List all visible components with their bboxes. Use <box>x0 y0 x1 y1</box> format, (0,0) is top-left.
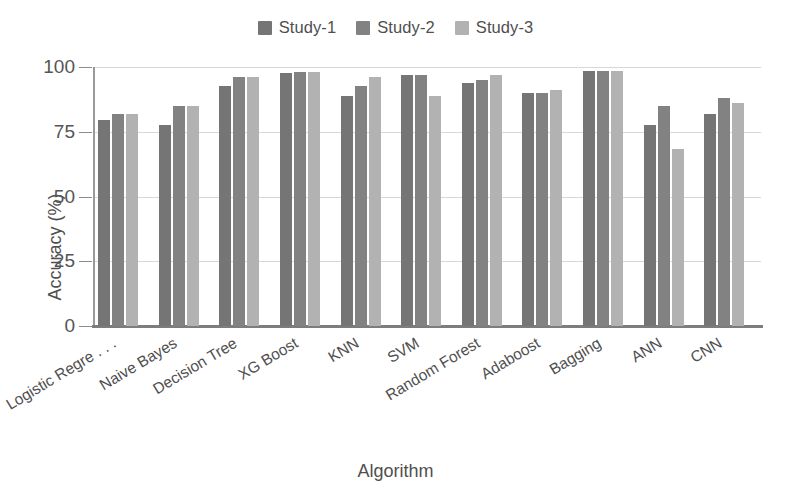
legend-swatch-icon-study-3 <box>455 21 469 35</box>
bar[interactable] <box>126 114 138 326</box>
legend-item-study-3: Study-3 <box>455 18 534 37</box>
y-tick-mark <box>79 326 92 327</box>
bar-group <box>640 67 701 326</box>
legend-item-study-2: Study-2 <box>356 18 435 37</box>
bar[interactable] <box>247 77 259 326</box>
bar-group <box>458 67 519 326</box>
legend-swatch-icon-study-1 <box>258 21 272 35</box>
bar-group <box>276 67 337 326</box>
x-tick-slot: Bagging <box>579 330 640 440</box>
legend-label-study-3: Study-3 <box>476 18 534 37</box>
bar[interactable] <box>233 77 245 326</box>
bar-group <box>518 67 579 326</box>
x-tick-slot: Decision Tree <box>215 330 276 440</box>
bar-group <box>700 67 761 326</box>
legend-swatch-icon-study-2 <box>356 21 370 35</box>
bar[interactable] <box>173 106 185 326</box>
bar-group <box>215 67 276 326</box>
bar[interactable] <box>159 125 171 326</box>
bar[interactable] <box>98 120 110 326</box>
x-tick-slot: CNN <box>700 330 761 440</box>
bar[interactable] <box>536 93 548 326</box>
bar[interactable] <box>280 73 292 326</box>
y-tick-mark <box>79 132 92 133</box>
bar-group <box>579 67 640 326</box>
bar[interactable] <box>644 125 656 326</box>
legend-label-study-1: Study-1 <box>279 18 337 37</box>
y-tick-mark <box>79 197 92 198</box>
bar[interactable] <box>490 75 502 326</box>
bar[interactable] <box>597 71 609 326</box>
bar-group <box>337 67 398 326</box>
y-tick-label: 25 <box>54 250 75 272</box>
bar[interactable] <box>672 149 684 326</box>
bar[interactable] <box>522 93 534 326</box>
bar[interactable] <box>550 90 562 326</box>
bar[interactable] <box>462 83 474 326</box>
bar[interactable] <box>355 86 367 326</box>
chart-legend: Study-1 Study-2 Study-3 <box>0 18 791 37</box>
y-tick-mark <box>79 261 92 262</box>
legend-label-study-2: Study-2 <box>377 18 435 37</box>
y-tick-label: 75 <box>54 121 75 143</box>
bars-layer <box>94 67 761 326</box>
bar[interactable] <box>732 103 744 326</box>
plot-area: 0255075100 <box>94 67 761 326</box>
bar[interactable] <box>187 106 199 326</box>
y-tick-label: 50 <box>54 186 75 208</box>
y-tick-mark <box>79 67 92 68</box>
bar[interactable] <box>369 77 381 326</box>
bar-group <box>155 67 216 326</box>
legend-item-study-1: Study-1 <box>258 18 337 37</box>
bar[interactable] <box>704 114 716 326</box>
bar[interactable] <box>476 80 488 326</box>
bar-chart-figure: Study-1 Study-2 Study-3 Accuracy (%) 025… <box>0 0 791 494</box>
bar[interactable] <box>341 96 353 327</box>
y-tick-label: 0 <box>64 315 75 337</box>
x-tick-slot: Random Forest <box>458 330 519 440</box>
y-tick-label: 100 <box>43 56 75 78</box>
bar[interactable] <box>611 71 623 326</box>
x-axis-title: Algorithm <box>0 461 791 482</box>
x-tick-slot: XG Boost <box>276 330 337 440</box>
x-tick-label: Logistic Regre . . . <box>3 334 119 414</box>
bar[interactable] <box>429 96 441 327</box>
x-tick-slot: ANN <box>640 330 701 440</box>
bar[interactable] <box>658 106 670 326</box>
bar-group <box>397 67 458 326</box>
bar[interactable] <box>308 72 320 326</box>
bar[interactable] <box>718 98 730 326</box>
bar-group <box>94 67 155 326</box>
bar[interactable] <box>583 71 595 326</box>
bar[interactable] <box>219 86 231 326</box>
x-tick-slot: Adaboost <box>518 330 579 440</box>
bar[interactable] <box>401 75 413 326</box>
y-axis-title: Accuracy (%) <box>45 193 66 300</box>
bar[interactable] <box>415 75 427 326</box>
x-axis-tick-labels: Logistic Regre . . .Naive BayesDecision … <box>94 330 761 440</box>
bar[interactable] <box>294 72 306 326</box>
bar[interactable] <box>112 114 124 326</box>
